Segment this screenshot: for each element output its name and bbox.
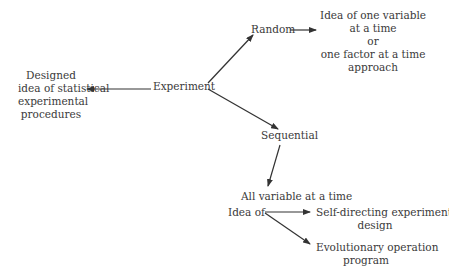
ofat-line-1: Idea of one variable: [316, 9, 430, 22]
evop-line-1: Evolutionary operation: [316, 241, 416, 254]
self-directing-line-2: design: [316, 219, 434, 232]
designed-line-2: idea of statistical: [18, 82, 84, 95]
experiment-diagram: Designed idea of statistical experimenta…: [0, 0, 449, 279]
ofat-line-2: at a time: [316, 22, 430, 35]
designed-line-1: Designed: [18, 69, 84, 82]
evop-node: Evolutionary operation program: [316, 241, 416, 267]
designed-line-4: procedures: [18, 108, 84, 121]
self-directing-node: Self-directing experimental design: [316, 206, 434, 232]
evop-line-2: program: [316, 254, 416, 267]
ofat-line-4: one factor at a time: [316, 48, 430, 61]
idea-of-node: Idea of: [228, 206, 265, 219]
self-directing-line-1: Self-directing experimental: [316, 206, 434, 219]
random-node: Random: [251, 23, 295, 36]
all-variable-node: All variable at a time: [241, 190, 352, 203]
designed-node: Designed idea of statistical experimenta…: [18, 69, 84, 121]
sequential-node: Sequential: [261, 129, 318, 142]
ofat-line-5: approach: [316, 61, 430, 74]
experiment-node: Experiment: [153, 80, 215, 93]
designed-line-3: experimental: [18, 95, 84, 108]
ofat-line-3: or: [316, 35, 430, 48]
ofat-node: Idea of one variable at a time or one fa…: [316, 9, 430, 74]
